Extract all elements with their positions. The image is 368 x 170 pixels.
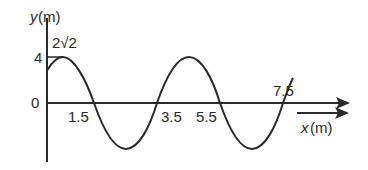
x-tick-3-5: 3.5 bbox=[161, 108, 182, 125]
x-tick-1-5: 1.5 bbox=[68, 108, 89, 125]
y-axis-label-unit: (m) bbox=[38, 8, 61, 25]
x-tick-7-5: 7.5 bbox=[273, 82, 294, 99]
initial-displacement-label: 2√2 bbox=[52, 34, 77, 51]
origin-label: 0 bbox=[31, 94, 39, 111]
x-axis-label-unit: (m) bbox=[310, 119, 333, 136]
x-tick-5-5: 5.5 bbox=[196, 108, 217, 125]
amplitude-label: 4 bbox=[34, 49, 42, 66]
wave-diagram: y (m) 4 2√2 0 1.5 3.5 5.5 7.5 x (m) bbox=[0, 0, 368, 170]
x-axis-label-var: x bbox=[300, 119, 309, 136]
